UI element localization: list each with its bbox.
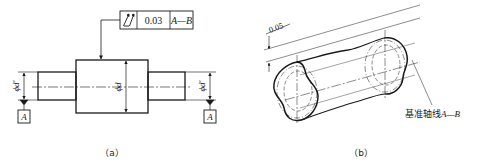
right-journal (148, 72, 185, 100)
right-diameter-label: ϕd' (197, 79, 207, 91)
zone-width-label: 0.05 (267, 20, 284, 34)
datum-triangle-right (206, 100, 214, 105)
caption-a: （a） (100, 148, 124, 158)
drawing-canvas: 0.03 A—B ϕd' ϕd ϕd' A A （a） (0, 0, 478, 167)
datum-label-right: A (206, 112, 213, 122)
axis-label-datum: A—B (440, 109, 461, 119)
left-journal (38, 72, 76, 100)
figure-b (264, 5, 432, 125)
circular-runout-icon (124, 14, 135, 26)
actual-surface-right (384, 38, 407, 94)
figure-a: 0.03 A—B (18, 11, 216, 123)
middle-cylinder (76, 60, 148, 113)
leader-line (101, 20, 120, 59)
datum-label-left: A (20, 112, 27, 122)
actual-surface-left (274, 62, 318, 121)
left-diameter-label: ϕd' (11, 79, 21, 91)
upper-generatrix (297, 38, 384, 62)
middle-diameter-label: ϕd (113, 82, 123, 92)
axis-label-prefix: 基准轴线 (405, 108, 441, 119)
axis-label: 基准轴线A—B (405, 108, 461, 119)
caption-b: （b） (349, 148, 373, 158)
datum-reference: A—B (170, 15, 192, 26)
datum-triangle-left (20, 100, 28, 105)
tolerance-value: 0.03 (145, 15, 163, 26)
